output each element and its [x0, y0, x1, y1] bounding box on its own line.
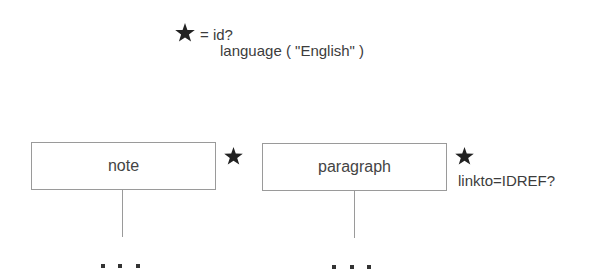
legend-language-text: language ( "English" )	[220, 43, 364, 59]
ellipsis-dot	[101, 264, 105, 268]
paragraph-box: paragraph	[262, 143, 447, 191]
star-icon	[175, 23, 195, 42]
ellipsis-dot	[136, 264, 140, 268]
star-icon	[224, 147, 243, 165]
paragraph-attribute-text: linkto=IDREF?	[458, 173, 555, 189]
ellipsis-dot	[350, 265, 354, 269]
ellipsis-dot	[118, 264, 122, 268]
note-box: note	[31, 142, 216, 190]
note-label: note	[108, 157, 139, 175]
ellipsis-dot	[367, 265, 371, 269]
note-connector-line	[122, 190, 123, 237]
legend-id-text: = id?	[200, 27, 233, 43]
paragraph-connector-line	[354, 191, 355, 238]
star-icon	[455, 147, 474, 165]
ellipsis-dot	[332, 265, 336, 269]
paragraph-label: paragraph	[318, 158, 391, 176]
